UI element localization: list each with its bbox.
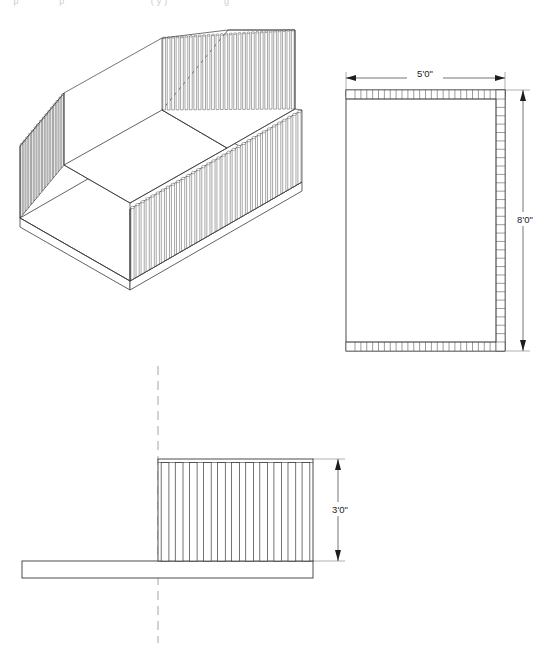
cropped-header-text: p p ( y ) g	[0, 0, 552, 7]
plan-view: 5'0" 8'0"	[330, 52, 552, 372]
elevation-base-ledge	[22, 561, 313, 578]
plan-width-dimension: 5'0"	[346, 67, 505, 81]
elevation-wall	[158, 459, 313, 561]
elevation-view: 3'0"	[0, 358, 380, 658]
elevation-height-dimension: 3'0"	[326, 459, 354, 561]
plan-depth-dimension: 8'0"	[511, 90, 539, 351]
plan-outline	[346, 90, 505, 351]
elevation-height-dimension-label: 3'0"	[332, 504, 348, 515]
isometric-view-graphic	[2, 18, 322, 318]
isometric-view	[2, 18, 322, 318]
cropped-header-text-label: p p ( y ) g	[0, 0, 229, 6]
plan-width-dimension-label: 5'0"	[417, 68, 433, 79]
plan-depth-dimension-label: 8'0"	[517, 214, 533, 225]
drawing-sheet: p p ( y ) g	[0, 0, 552, 662]
plan-view-graphic: 5'0" 8'0"	[330, 52, 552, 372]
elevation-view-graphic: 3'0"	[0, 358, 380, 658]
elevation-slats	[158, 463, 313, 562]
